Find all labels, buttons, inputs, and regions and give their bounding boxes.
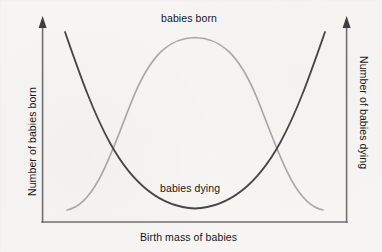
curve-label-babies-born: babies born [161, 12, 217, 24]
right-axis-arrow-icon [343, 16, 351, 28]
chart-figure: babies born babies dying Number of babie… [0, 0, 382, 252]
chart-plot-area [0, 0, 382, 252]
right-y-axis-title: Number of babies dying [358, 56, 370, 169]
x-axis-title: Birth mass of babies [140, 231, 237, 243]
left-y-axis-title: Number of babies born [26, 87, 38, 196]
curve-label-babies-dying: babies dying [160, 182, 220, 194]
left-axis-arrow-icon [39, 16, 47, 28]
